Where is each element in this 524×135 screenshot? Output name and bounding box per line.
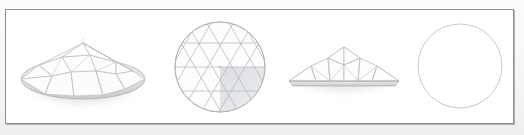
drawing-panel[interactable] xyxy=(5,9,514,124)
circle-view-outline xyxy=(418,24,502,108)
drawing-viewport[interactable] xyxy=(6,10,513,123)
front-view-base-slab xyxy=(289,81,399,86)
perspective-dome-view[interactable] xyxy=(11,10,156,123)
front-elevation-dome-view[interactable] xyxy=(283,10,405,123)
top-view-center-vertex xyxy=(219,66,221,68)
front-elevation-dome-svg xyxy=(283,10,405,123)
perspective-dome-svg xyxy=(11,10,156,123)
plan-outline-circle-view[interactable] xyxy=(406,10,515,123)
top-plan-dome-svg xyxy=(161,10,279,123)
plan-outline-circle-svg xyxy=(406,10,515,123)
screenshot-root xyxy=(0,0,524,135)
top-plan-dome-view[interactable] xyxy=(161,10,279,123)
